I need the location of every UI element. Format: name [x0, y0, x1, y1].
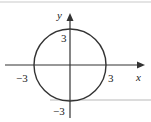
y-axis-arrow-icon	[67, 13, 74, 21]
x-axis-arrow-icon	[137, 62, 145, 69]
x-neg-tick-label: −3	[16, 72, 28, 84]
y-axis-label: y	[56, 9, 62, 21]
y-pos-tick-label: 3	[61, 32, 67, 44]
x-pos-tick-label: 3	[108, 72, 114, 84]
circle-diagram: y x 3 −3 3 −3	[0, 0, 151, 122]
y-neg-tick-label: −3	[53, 105, 65, 117]
x-axis-label: x	[135, 71, 141, 83]
